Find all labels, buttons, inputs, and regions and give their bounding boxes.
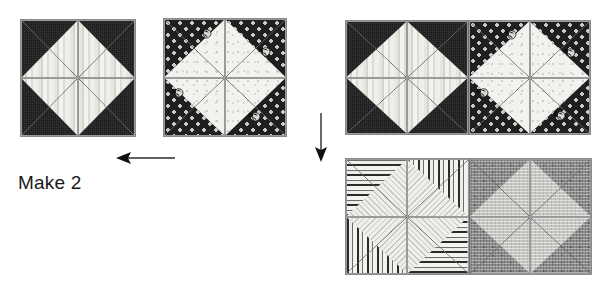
quilt-quadrant-top-right <box>78 20 135 78</box>
quilt-quadrant-top-left <box>346 21 407 78</box>
mottled-pinwheel-half <box>469 159 592 274</box>
quilt-quadrant-bottom-right <box>225 78 286 137</box>
striped-light-pinwheel-half <box>346 159 469 274</box>
quilt-quadrant-bottom-left <box>346 78 407 135</box>
quilt-quadrant-bottom-right <box>530 78 591 135</box>
quilt-quadrant-top-left <box>346 159 407 217</box>
quilt-quadrant-bottom-right <box>530 217 591 275</box>
arrow-left-icon <box>114 150 176 166</box>
striped-pinwheel-half <box>346 21 468 134</box>
quilt-quadrant-top-right <box>225 19 286 78</box>
quilt-quadrant-bottom-left <box>164 78 225 137</box>
quilt-quadrant-top-left <box>469 21 530 78</box>
arrow-down-icon <box>313 113 329 163</box>
quilt-quadrant-bottom-left <box>469 78 530 135</box>
quilt-quadrant-bottom-left <box>470 217 531 275</box>
joined-light-pair-unit <box>345 158 592 275</box>
quilt-quadrant-bottom-right <box>407 217 468 275</box>
quilt-quadrant-top-right <box>530 21 591 78</box>
quilt-quadrant-top-right <box>407 21 468 78</box>
joined-dark-pair-unit <box>345 20 591 135</box>
polka-dot-pinwheel-half <box>468 21 590 134</box>
striped-pinwheel-block <box>20 19 136 137</box>
make-count-label: Make 2 <box>18 172 82 194</box>
quilt-quadrant-bottom-right <box>407 78 468 135</box>
quilt-quadrant-top-left <box>21 20 78 78</box>
quilt-quadrant-bottom-right <box>78 78 135 136</box>
quilt-quadrant-top-left <box>470 159 531 217</box>
quilt-quadrant-bottom-left <box>346 217 407 275</box>
diagram-canvas: Make 2 <box>0 0 602 288</box>
quilt-quadrant-top-left <box>164 19 225 78</box>
polka-dot-pinwheel-block <box>163 18 287 137</box>
quilt-quadrant-bottom-left <box>21 78 78 136</box>
quilt-quadrant-top-right <box>530 159 591 217</box>
quilt-quadrant-top-right <box>407 159 468 217</box>
